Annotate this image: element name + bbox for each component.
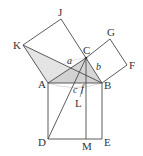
point-c-dot [85,57,88,60]
pythagorean-proof-diagram: J K C G F A B L D M E a b c f [0,0,143,156]
label-k: K [13,39,21,51]
label-a-point: A [38,78,46,90]
label-b-point: B [104,79,111,91]
side-label-f: f [81,83,85,94]
geometry-canvas: J K C G F A B L D M E a b c f [0,0,143,156]
side-label-a: a [67,55,72,66]
label-f-point: F [129,59,135,71]
label-m: M [82,140,92,152]
label-g: G [107,26,115,38]
label-j: J [58,6,63,18]
label-e: E [104,136,111,148]
side-label-c: c [73,84,78,95]
segment-jk [23,19,61,45]
label-d: D [38,136,46,148]
label-l: L [75,97,82,109]
side-label-b: b [96,61,101,72]
segment-gf [110,39,127,65]
label-c: C [83,44,90,56]
